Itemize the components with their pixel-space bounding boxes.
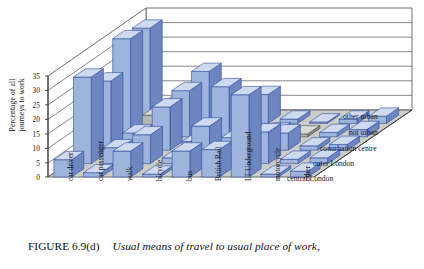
depth-label-not-urban: not urban: [349, 128, 378, 137]
x-axis-label-car-passenger: car passenger: [96, 141, 105, 181]
depth-label-outer-london: outer London: [313, 159, 354, 168]
y-tick-0: 0: [22, 173, 40, 182]
depth-label-central-london: central London: [287, 174, 333, 183]
depth-label-conurbation-centre: conurbation centre: [320, 144, 377, 153]
depth-label-other-urban: other urban: [343, 112, 378, 121]
x-axis-label-bus: bus: [185, 171, 194, 181]
y-tick-15: 15: [22, 130, 40, 139]
y-axis-title-line1: Percentage of all: [8, 55, 17, 155]
figure-container: Percentage of all journeys to work 35 30…: [0, 0, 424, 269]
y-tick-30: 30: [22, 86, 40, 95]
x-axis-label-walk: walk: [125, 167, 134, 181]
x-axis-label-british-rail: British Rail: [214, 147, 223, 181]
x-axis-label-lt-underground: LT Underground: [244, 132, 253, 181]
y-tick-20: 20: [22, 115, 40, 124]
x-axis-label-car-driver: car driver: [66, 152, 75, 181]
figure-caption: FIGURE 6.9(d)Usual means of travel to us…: [28, 240, 320, 252]
y-tick-25: 25: [22, 101, 40, 110]
x-axis-label-bicycle: bicycle: [155, 160, 164, 181]
y-tick-35: 35: [22, 72, 40, 81]
figure-caption-text: Usual means of travel to usual place of …: [113, 240, 320, 252]
x-axis-label-motorcycle: motorcycle: [273, 148, 282, 181]
y-tick-5: 5: [22, 159, 40, 168]
figure-number: FIGURE 6.9(d): [28, 240, 100, 252]
y-tick-10: 10: [22, 144, 40, 153]
